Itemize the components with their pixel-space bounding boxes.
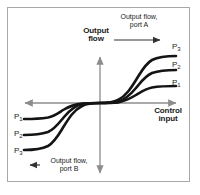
annotation-port-a-line2: port A: [130, 21, 148, 28]
curve-label-left-p2-sub: 2: [19, 133, 22, 139]
curve-label-right-p3: P3: [172, 43, 181, 51]
curve-label-left-p1-sub: 1: [19, 116, 22, 122]
annotation-port-a: Output flow, port A: [110, 13, 168, 29]
curve-label-right-p2-sub: 2: [177, 64, 180, 70]
y-axis-label: Output flow: [76, 27, 116, 44]
figure-container: Output flow Control input Output flow, p…: [0, 0, 200, 195]
annotation-port-b-line2: port B: [60, 165, 79, 172]
annotation-port-b: Output flow, port B: [40, 157, 98, 173]
curve-label-right-p3-sub: 3: [177, 46, 180, 52]
annotation-port-a-line1: Output flow,: [121, 13, 158, 20]
curve-label-left-p3: P3: [14, 147, 23, 155]
curve-label-right-p2: P2: [172, 61, 181, 69]
curve-label-right-p1-sub: 1: [177, 82, 180, 88]
curve-label-left-p2: P2: [14, 130, 23, 138]
curve-label-right-p1: P1: [172, 79, 181, 87]
curve-label-left-p1: P1: [14, 113, 23, 121]
annotation-port-b-line1: Output flow,: [51, 157, 88, 164]
x-axis-label: Control input: [146, 107, 190, 124]
curve-label-left-p3-sub: 3: [19, 150, 22, 156]
x-axis-label-line2: input: [158, 114, 177, 123]
y-axis-label-line2: flow: [88, 34, 104, 43]
